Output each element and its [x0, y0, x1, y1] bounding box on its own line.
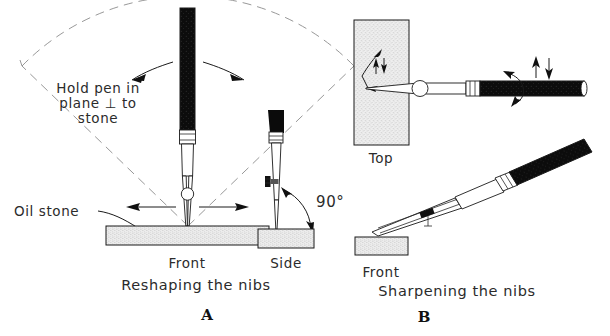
oil-stone-top	[354, 20, 409, 145]
oil-stone-front	[106, 226, 269, 245]
oil-stone-label: Oil stone	[14, 203, 79, 219]
pen-ferrule-top	[466, 81, 480, 96]
note-line-1: Hold pen in	[56, 80, 140, 96]
pen-front-view	[180, 8, 196, 226]
pen-handle	[180, 8, 195, 130]
view-label-side-a: Side	[270, 255, 302, 271]
pen-ferrule	[180, 130, 196, 144]
pen-handle-top	[480, 81, 584, 96]
view-label-front-b: Front	[362, 264, 399, 280]
panel-letter-b: B	[418, 308, 431, 326]
angle-label: 90°	[316, 193, 344, 211]
view-label-top-b: Top	[368, 150, 394, 166]
pen-shank	[182, 144, 194, 176]
technical-illustration: Hold pen in plane ⊥ to stone	[0, 0, 610, 336]
caption-panel-a: Reshaping the nibs	[121, 277, 270, 293]
pen-ferrule-side	[269, 132, 283, 143]
pen-handle-side	[268, 110, 284, 133]
oil-stone-side	[258, 229, 314, 248]
view-label-front-a: Front	[168, 255, 205, 271]
note-line-2: plane ⊥ to	[59, 95, 136, 111]
panel-letter-a: A	[200, 306, 213, 324]
oil-stone-front-b	[355, 237, 408, 255]
note-line-3: stone	[78, 110, 118, 126]
adjusting-screw-top	[412, 81, 428, 97]
adjusting-screw	[181, 188, 193, 200]
caption-panel-b: Sharpening the nibs	[378, 283, 535, 299]
